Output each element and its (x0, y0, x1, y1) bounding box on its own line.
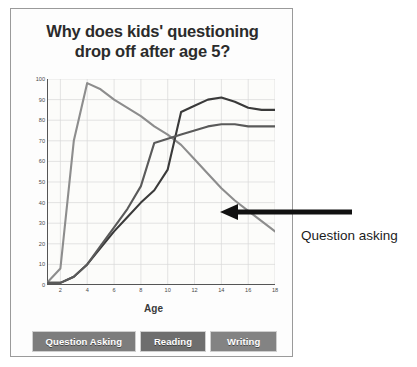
legend-item-question-asking[interactable]: Question Asking (32, 331, 136, 352)
x-tick-label: 2 (59, 287, 62, 293)
legend-label: Writing (227, 336, 260, 347)
title-line-2: drop off after age 5? (19, 41, 286, 61)
page-title: Why does kids' questioning drop off afte… (19, 21, 286, 61)
annotation: Question asking (216, 198, 411, 260)
y-tick-label: 30 (39, 220, 45, 226)
title-line-1: Why does kids' questioning (46, 22, 258, 40)
legend-item-writing[interactable]: Writing (210, 331, 277, 352)
y-tick-label: 20 (39, 241, 45, 247)
x-tick-label: 6 (112, 287, 115, 293)
x-axis-label: Age (25, 303, 282, 314)
y-tick-label: 0 (42, 282, 45, 288)
x-tick-label: 10 (165, 287, 171, 293)
annotation-label: Question asking (301, 228, 398, 243)
y-tick-label: 40 (39, 200, 45, 206)
y-tick-label: 60 (39, 158, 45, 164)
y-tick-label: 70 (39, 138, 45, 144)
y-tick-label: 90 (39, 97, 45, 103)
chart-card: Why does kids' questioning drop off afte… (10, 8, 293, 357)
legend-label: Question Asking (46, 336, 123, 347)
legend-label: Reading (154, 336, 192, 347)
y-tick-label: 50 (39, 179, 45, 185)
x-tick-label: 4 (86, 287, 89, 293)
y-tick-label: 100 (36, 76, 45, 82)
y-tick-label: 10 (39, 261, 45, 267)
x-tick-label: 18 (272, 287, 278, 293)
x-tick-label: 14 (218, 287, 224, 293)
x-tick-label: 12 (191, 287, 197, 293)
x-tick-label: 16 (245, 287, 251, 293)
legend-item-reading[interactable]: Reading (140, 331, 207, 352)
legend: Question Asking Reading Writing (32, 331, 277, 352)
x-tick-label: 8 (139, 287, 142, 293)
y-tick-label: 80 (39, 117, 45, 123)
